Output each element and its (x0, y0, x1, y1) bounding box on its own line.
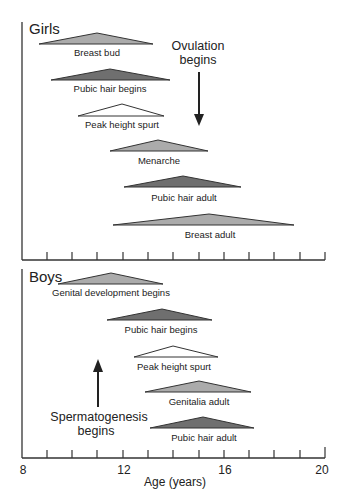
girls-breast-adult-label: Breast adult (185, 229, 236, 240)
girls-panel: Girls Breast bud Pubic hair begins Peak … (22, 20, 325, 260)
boys-pubic-hair-begins-label: Pubic hair begins (125, 324, 198, 335)
girls-panel-title: Girls (29, 20, 60, 37)
boys-genital-development-begins-label: Genital development begins (52, 287, 170, 298)
boys-pubic-hair-adult-label: Pubic hair adult (171, 432, 237, 443)
girls-x-ticks (47, 252, 325, 260)
x-axis-title: Age (years) (144, 475, 206, 489)
boys-pubic-hair-begins-range (107, 309, 212, 320)
girls-pubic-hair-adult-label: Pubic hair adult (151, 192, 217, 203)
spermatogenesis-label-line2: begins (78, 424, 115, 438)
boys-panel: Boys Genital development begins Pubic ha… (20, 268, 329, 489)
ovulation-label-line1: Ovulation (172, 39, 225, 53)
girls-pubic-hair-begins-range (51, 69, 170, 80)
boys-pubic-hair-adult-range (150, 417, 254, 428)
ovulation-label-line2: begins (180, 53, 217, 67)
boys-genitalia-adult-label: Genitalia adult (169, 396, 230, 407)
spermatogenesis-arrow-up-icon (93, 359, 103, 407)
boys-panel-title: Boys (29, 268, 62, 285)
x-tick-label-8: 8 (20, 463, 27, 477)
puberty-timeline-chart: Girls Breast bud Pubic hair begins Peak … (0, 0, 347, 504)
boys-genital-development-begins-range (58, 273, 163, 284)
boys-peak-height-spurt-range (134, 346, 218, 357)
x-tick-label-20: 20 (315, 463, 329, 477)
boys-x-ticks (47, 447, 325, 458)
spermatogenesis-label-line1: Spermatogenesis (50, 410, 147, 424)
x-tick-label-12: 12 (117, 463, 131, 477)
girls-breast-bud-label: Breast bud (74, 47, 120, 58)
boys-peak-height-spurt-label: Peak height spurt (137, 361, 211, 372)
girls-pubic-hair-adult-range (124, 176, 241, 187)
girls-peak-height-spurt-range (78, 104, 164, 116)
girls-menarche-label: Menarche (138, 155, 180, 166)
ovulation-arrow-down-icon (194, 72, 204, 126)
girls-menarche-range (110, 140, 208, 151)
girls-pubic-hair-begins-label: Pubic hair begins (74, 83, 147, 94)
boys-genitalia-adult-range (145, 381, 251, 392)
x-tick-label-16: 16 (218, 463, 232, 477)
girls-peak-height-spurt-label: Peak height spurt (85, 119, 159, 130)
girls-breast-adult-range (113, 214, 294, 225)
